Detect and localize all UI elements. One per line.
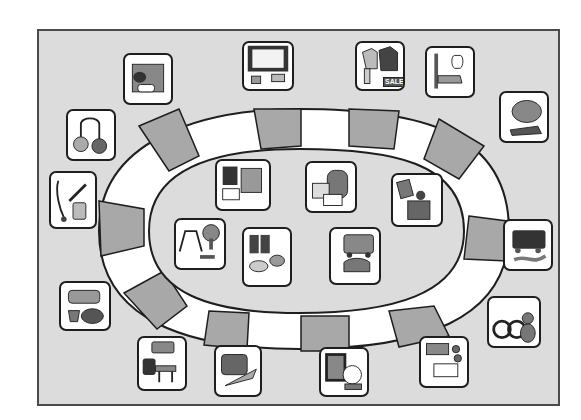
tile-newsstand[interactable] [123, 53, 173, 105]
toys-icon [489, 298, 539, 346]
tile-library[interactable] [215, 159, 271, 211]
tile-atm[interactable] [242, 41, 294, 91]
airport-icon [216, 347, 260, 395]
tile-bank[interactable] [419, 336, 469, 388]
tile-toys[interactable] [487, 296, 541, 348]
tile-pharmacy[interactable] [49, 171, 97, 229]
tile-park[interactable] [174, 218, 226, 270]
shoe-store-icon [244, 229, 290, 285]
game-board: SALE [37, 29, 560, 406]
school-icon [139, 338, 185, 389]
fire-truck-icon [505, 221, 551, 269]
laundry-icon [68, 111, 114, 159]
museum-icon [321, 349, 367, 395]
library-icon [217, 161, 269, 209]
atm-icon [244, 43, 292, 89]
sale-sign: SALE [383, 77, 405, 87]
tile-laundry[interactable] [66, 109, 116, 161]
zoo-animals-icon [501, 93, 547, 141]
tile-museum[interactable] [319, 347, 369, 397]
hospital-icon [331, 229, 379, 283]
tile-police[interactable] [59, 281, 111, 331]
tile-fire-truck[interactable] [503, 219, 553, 271]
tile-grocery[interactable] [391, 173, 443, 227]
newsstand-icon [125, 55, 171, 103]
bank-icon [421, 338, 467, 386]
tile-post-office[interactable] [305, 161, 357, 213]
police-icon [61, 283, 109, 329]
grocery-icon [393, 175, 441, 225]
tile-hospital[interactable] [329, 227, 381, 285]
board-track [39, 31, 562, 408]
tile-shoe-store[interactable] [242, 227, 292, 287]
pharmacy-icon [51, 173, 95, 227]
park-icon [176, 220, 224, 268]
tile-airport[interactable] [214, 345, 262, 397]
tile-dental[interactable] [425, 46, 475, 98]
tile-zoo[interactable] [499, 91, 549, 143]
dental-icon [427, 48, 473, 96]
tile-school[interactable] [137, 336, 187, 391]
post-office-icon [307, 163, 355, 211]
tile-clothing-sale[interactable]: SALE [355, 41, 405, 91]
